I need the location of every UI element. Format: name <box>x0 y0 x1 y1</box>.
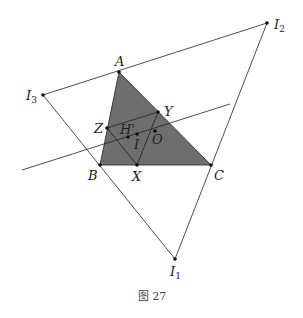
label-y: Y <box>164 104 174 119</box>
point-i <box>135 132 139 136</box>
label-c: C <box>214 168 224 183</box>
label-i3: I3 <box>25 88 37 105</box>
point-i2 <box>265 21 269 25</box>
label-i1: I1 <box>169 264 181 281</box>
point-c <box>209 163 213 167</box>
point-b <box>98 163 102 167</box>
line-i2-i1 <box>175 23 267 259</box>
point-i3 <box>41 93 45 97</box>
label-i: I <box>133 137 140 152</box>
label-x: X <box>131 169 142 184</box>
line-i3-i2 <box>43 23 267 95</box>
label-z: Z <box>93 121 104 136</box>
label-o: O <box>152 132 163 147</box>
label-h-prime: H' <box>119 122 135 137</box>
point-x <box>135 163 139 167</box>
label-a: A <box>114 54 124 69</box>
point-a <box>117 70 121 74</box>
label-i2: I2 <box>273 17 285 34</box>
geometry-figure: A B C X Y Z H' I O I1 I2 I3 图 27 <box>0 0 303 318</box>
point-z <box>105 126 109 130</box>
label-b: B <box>87 168 98 183</box>
point-i1 <box>173 257 177 261</box>
point-y <box>156 110 160 114</box>
figure-caption: 图 27 <box>138 290 167 303</box>
